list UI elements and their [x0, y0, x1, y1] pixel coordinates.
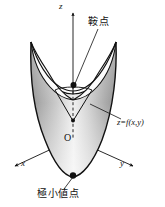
surface-diagram-svg: [0, 0, 165, 207]
surface-equation-label: z=f(x,y): [117, 117, 144, 127]
saddle-point-label: 鞍点: [88, 13, 109, 28]
valley-vertex-dot: [71, 119, 75, 123]
surface-body: [31, 42, 116, 177]
saddle-leader-line: [74, 29, 98, 86]
y-axis-label: y: [120, 158, 124, 168]
origin-label: O: [64, 132, 71, 143]
x-axis-label: x: [21, 158, 25, 168]
figure-container: 鞍点 極小値点 z x y O z=f(x,y): [0, 0, 165, 207]
minimum-point-dot: [70, 172, 76, 178]
z-axis-label: z: [59, 1, 63, 11]
minimum-point-label: 極小値点: [37, 185, 79, 200]
surface-fill-vertical-sheen: [31, 42, 116, 177]
